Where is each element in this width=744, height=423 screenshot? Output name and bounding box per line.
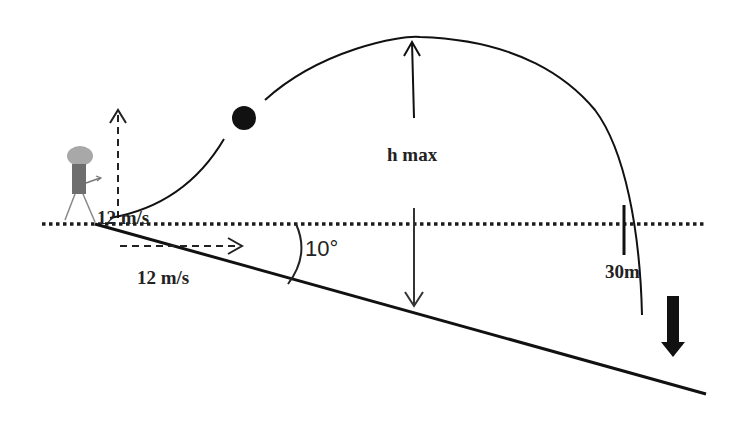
vertical-velocity-arrow [110,110,126,218]
angle-label: 10° [305,238,338,260]
trajectory-arc [265,37,642,315]
incline-surface [95,224,706,394]
person-icon [65,146,101,222]
hmax-up-arrow [404,42,420,118]
max-height-label: h max [387,145,437,164]
vertical-velocity-label: 12 m/s [97,208,149,227]
ball [232,106,256,130]
horizontal-velocity-label: 12 m/s [137,268,189,287]
down-arrow-icon [661,296,685,357]
angle-arc [288,224,301,284]
distance-label: 30m [605,262,640,281]
horizontal-velocity-arrow [120,238,242,254]
